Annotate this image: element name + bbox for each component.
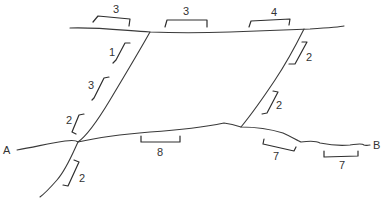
- svg-text:2: 2: [66, 114, 72, 126]
- endpoint-b-label: B: [373, 139, 380, 151]
- svg-text:7: 7: [273, 150, 279, 162]
- svg-text:2: 2: [79, 172, 85, 184]
- svg-text:7: 7: [339, 159, 345, 171]
- segment-left-diag-lower: 2: [66, 114, 84, 134]
- svg-text:3: 3: [183, 5, 189, 17]
- svg-text:4: 4: [271, 6, 277, 18]
- segment-bottom-middle: 8: [141, 136, 180, 158]
- segment-left-diag-upper: 1: [109, 43, 130, 63]
- svg-text:2: 2: [306, 51, 312, 63]
- svg-text:8: 8: [157, 146, 163, 158]
- segment-top-middle: 3: [165, 5, 207, 27]
- svg-text:2: 2: [276, 99, 282, 111]
- left-diagonal-road: [40, 32, 150, 197]
- svg-text:1: 1: [109, 46, 115, 58]
- segment-left-diag-middle: 3: [88, 77, 109, 100]
- svg-text:3: 3: [88, 79, 94, 91]
- network-diagram: A B 3 3 4 1 3 2 2 2 2 8: [0, 0, 382, 200]
- right-diagonal-road: [241, 29, 304, 127]
- segment-bottom-right-2: 7: [324, 151, 358, 171]
- segment-right-diag-upper: 2: [289, 42, 312, 64]
- bottom-road: [17, 123, 370, 150]
- segment-bottom-right-1: 7: [263, 139, 296, 162]
- segment-top-right: 4: [249, 6, 290, 27]
- svg-text:3: 3: [113, 3, 119, 15]
- endpoint-a-label: A: [3, 144, 11, 156]
- segment-left-diag-below: 2: [63, 160, 85, 186]
- segment-top-left: 3: [93, 3, 130, 26]
